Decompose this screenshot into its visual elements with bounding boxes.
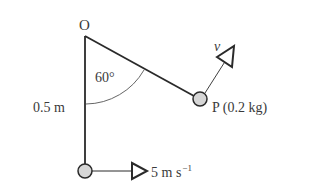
- p-velocity-line: [205, 60, 226, 93]
- bottom-ball: [78, 164, 92, 178]
- inclined-string: [85, 36, 194, 96]
- particle-label: P (0.2 kg): [212, 100, 267, 116]
- bottom-speed-exponent: −1: [182, 163, 192, 173]
- bottom-speed-value: 5 m s: [151, 165, 181, 180]
- pendulum-diagram: O 60° 0.5 m P (0.2 kg) v 5 m s−1: [0, 0, 309, 193]
- length-label: 0.5 m: [33, 100, 65, 115]
- bottom-velocity-arrowhead-icon: [132, 163, 147, 179]
- angle-label: 60°: [95, 70, 115, 85]
- pivot-label: O: [79, 17, 90, 33]
- velocity-label: v: [214, 39, 221, 54]
- particle-p-ball: [193, 92, 207, 106]
- bottom-speed-label: 5 m s−1: [151, 163, 192, 180]
